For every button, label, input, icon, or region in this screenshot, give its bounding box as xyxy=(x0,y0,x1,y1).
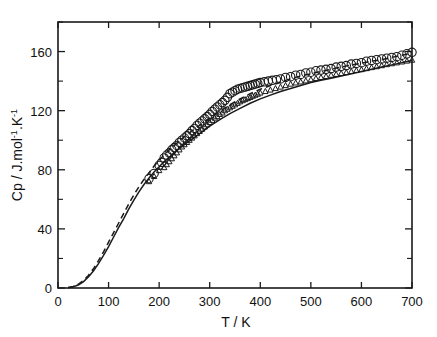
svg-text:80: 80 xyxy=(38,163,52,178)
svg-text:200: 200 xyxy=(148,294,170,309)
svg-text:160: 160 xyxy=(30,45,52,60)
fit-curves xyxy=(68,53,412,288)
y-axis-tick-labels: 04080120160 xyxy=(30,45,52,296)
y-axis-ticks xyxy=(58,22,412,288)
svg-text:Cp / J.mol-1.K-1: Cp / J.mol-1.K-1 xyxy=(9,109,25,201)
series-lower-series xyxy=(146,57,414,184)
svg-text:400: 400 xyxy=(249,294,271,309)
svg-text:100: 100 xyxy=(98,294,120,309)
svg-text:700: 700 xyxy=(401,294,423,309)
chart-figure: 0100200300400500600700 04080120160 T / K… xyxy=(0,0,437,337)
svg-text:0: 0 xyxy=(54,294,61,309)
series-markers xyxy=(145,48,416,184)
svg-text:40: 40 xyxy=(38,222,52,237)
svg-text:300: 300 xyxy=(199,294,221,309)
x-axis-tick-labels: 0100200300400500600700 xyxy=(54,294,422,309)
y-axis-title: Cp / J.mol-1.K-1 xyxy=(9,109,25,201)
svg-text:600: 600 xyxy=(351,294,373,309)
x-axis-title: T / K xyxy=(221,314,251,330)
heat-capacity-plot: 0100200300400500600700 04080120160 T / K… xyxy=(0,0,437,337)
svg-text:120: 120 xyxy=(30,104,52,119)
plot-frame xyxy=(58,22,412,288)
svg-text:500: 500 xyxy=(300,294,322,309)
x-axis-ticks xyxy=(58,22,412,288)
svg-text:0: 0 xyxy=(45,281,52,296)
